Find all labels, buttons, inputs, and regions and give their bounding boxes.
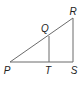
label-s: S — [71, 66, 78, 76]
label-r: R — [69, 7, 76, 17]
label-t: T — [45, 66, 51, 76]
label-q: Q — [41, 24, 49, 34]
label-p: P — [4, 66, 11, 76]
